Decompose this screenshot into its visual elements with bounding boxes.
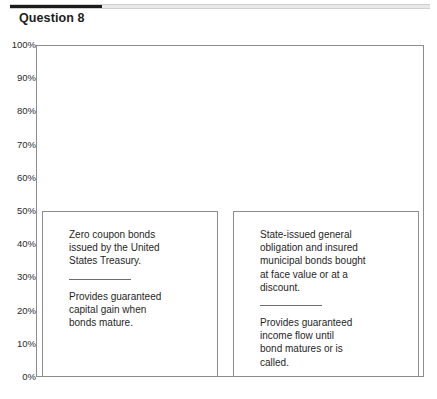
bar-2-content: State-issued general obligation and insu… bbox=[260, 228, 408, 369]
y-axis-tick-label: 40% bbox=[2, 239, 36, 249]
y-axis-tick-label: 70% bbox=[2, 140, 36, 150]
y-axis-tick-label: 50% bbox=[2, 206, 36, 216]
bar-1[interactable]: Zero coupon bonds issued by the United S… bbox=[42, 211, 218, 377]
bar-2-divider bbox=[260, 305, 322, 306]
y-axis-tick-label: 80% bbox=[2, 107, 36, 117]
bar-chart: 100%90%80%70%60%50%40%30%20%10%0% Zero c… bbox=[0, 0, 437, 399]
bar-2[interactable]: State-issued general obligation and insu… bbox=[233, 211, 419, 377]
y-axis-tick-label: 0% bbox=[2, 372, 36, 382]
y-axis-tick-label: 100% bbox=[2, 40, 36, 50]
y-axis-tick-label: 20% bbox=[2, 306, 36, 316]
bar-1-secondary-text: Provides guaranteed capital gain when bo… bbox=[69, 290, 207, 330]
y-axis-tick-label: 10% bbox=[2, 339, 36, 349]
y-axis-tick-label: 60% bbox=[2, 173, 36, 183]
bar-2-secondary-text: Provides guaranteed income flow until bo… bbox=[260, 316, 408, 369]
y-axis-tick-label: 90% bbox=[2, 73, 36, 83]
bar-2-primary-text: State-issued general obligation and insu… bbox=[260, 228, 408, 294]
bar-1-primary-text: Zero coupon bonds issued by the United S… bbox=[69, 228, 207, 268]
y-axis-tick-label: 30% bbox=[2, 273, 36, 283]
bar-1-content: Zero coupon bonds issued by the United S… bbox=[69, 228, 207, 329]
y-axis: 100%90%80%70%60%50%40%30%20%10%0% bbox=[0, 0, 36, 399]
bar-1-divider bbox=[69, 279, 131, 280]
